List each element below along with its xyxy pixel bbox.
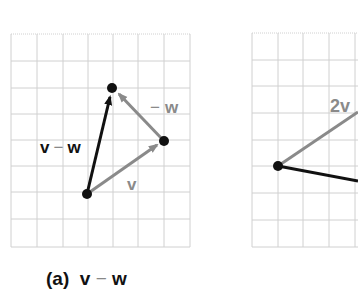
- caption-minus: −: [96, 268, 107, 289]
- point-v-tip: [159, 136, 169, 146]
- point-top: [107, 83, 117, 93]
- caption-prefix: (a): [46, 268, 69, 289]
- vector-2v: [278, 112, 358, 166]
- label-v-minus-w: v−w: [40, 138, 81, 157]
- vector-diagram: v−w −w v 2v: [0, 0, 358, 298]
- point-origin-right: [273, 161, 283, 171]
- point-origin: [82, 189, 92, 199]
- label-neg-w: −w: [150, 98, 179, 117]
- label-2v: 2v: [330, 96, 350, 116]
- caption-w: w: [112, 268, 127, 289]
- grid-right: [252, 33, 358, 247]
- label-v: v: [127, 175, 137, 194]
- caption-v: v: [80, 268, 91, 289]
- vector-black-right: [278, 166, 358, 181]
- caption-a: (a) v − w: [46, 268, 127, 290]
